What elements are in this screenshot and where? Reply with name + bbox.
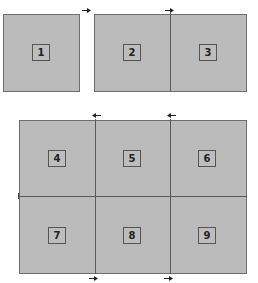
cell-label-2: 2: [123, 44, 141, 61]
cell-label-4: 4: [48, 150, 66, 167]
arrow-right-icon: [164, 276, 173, 281]
cell-label-3: 3: [199, 44, 217, 61]
cell-label-7: 7: [48, 227, 66, 244]
divider-2-3: [170, 13, 171, 91]
arrow-left-icon: [92, 113, 101, 118]
cell-label-9: 9: [198, 227, 216, 244]
panel-grid: [19, 120, 247, 274]
arrow-right-icon: [89, 276, 98, 281]
arrow-right-icon: [82, 8, 91, 13]
cell-label-8: 8: [123, 227, 141, 244]
divider-row: [19, 196, 247, 197]
cell-label-1: 1: [32, 44, 50, 61]
row-divider-tick: [18, 193, 19, 199]
arrow-right-icon: [165, 8, 174, 13]
arrow-left-icon: [167, 113, 176, 118]
cell-label-6: 6: [198, 150, 216, 167]
cell-label-5: 5: [123, 150, 141, 167]
